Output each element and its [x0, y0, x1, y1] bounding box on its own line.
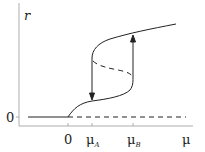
lower-stable-branch — [68, 78, 133, 117]
arrow-down-icon — [90, 93, 95, 100]
x-tick-label-mu-b: μB — [127, 132, 141, 149]
y-axis-label: r — [24, 8, 31, 23]
x-tick-label-0: 0 — [64, 132, 72, 147]
x-axis-label: μ — [182, 132, 190, 147]
x-tick-label-mu-a: μA — [86, 132, 100, 149]
axes — [16, 3, 193, 126]
arrow-up-icon — [131, 35, 136, 42]
bifurcation-diagram: r 0 0 μA μB μ — [0, 0, 205, 152]
y-tick-label: 0 — [6, 110, 14, 125]
middle-unstable-branch — [93, 61, 133, 78]
